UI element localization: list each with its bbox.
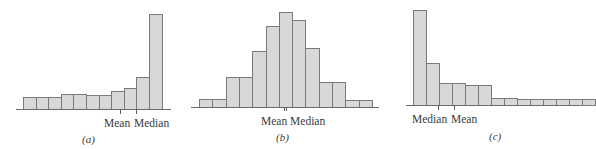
histogram-bar xyxy=(452,83,466,106)
histogram-bar xyxy=(439,83,453,106)
histogram-c-mean-tick xyxy=(454,105,455,110)
histogram-bar xyxy=(413,10,427,106)
histogram-c-x-axis xyxy=(406,105,579,106)
histogram-c-caption: (c) xyxy=(489,130,501,142)
histogram-c-mean-label: Mean xyxy=(451,113,477,125)
histogram-c-median-label: Median xyxy=(412,113,447,125)
histogram-bar xyxy=(465,85,479,106)
histogram-bar xyxy=(582,99,596,106)
histogram-bar xyxy=(426,63,440,106)
histogram-c-median-tick xyxy=(438,105,439,110)
histogram-bar xyxy=(478,85,492,106)
